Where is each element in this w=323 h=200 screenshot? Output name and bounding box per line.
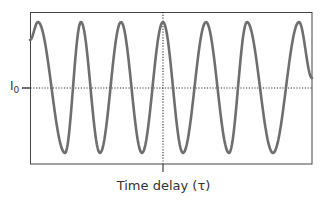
x-axis-label: Time delay (τ) bbox=[0, 178, 323, 193]
interferogram-figure bbox=[0, 0, 323, 200]
i0-label: I0 bbox=[10, 79, 19, 95]
